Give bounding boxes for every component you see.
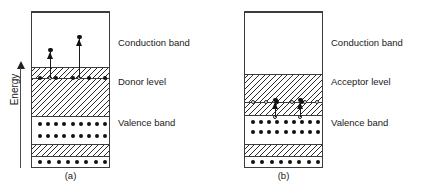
valence-row-2-item bbox=[316, 130, 320, 134]
valence-row-1-item bbox=[316, 120, 320, 124]
electron-excitation-1-arrowhead bbox=[47, 52, 53, 59]
hole-generation-1-arrowhead bbox=[272, 102, 278, 109]
valence-row-2-item bbox=[79, 134, 83, 138]
core-row-item bbox=[251, 160, 255, 164]
valence-row-1-item bbox=[292, 120, 296, 124]
valence-row-2-item bbox=[38, 134, 42, 138]
valence-row-1-item bbox=[79, 122, 83, 126]
valence-row-2-item bbox=[103, 134, 107, 138]
valence-row-2-item bbox=[95, 134, 99, 138]
acceptor-level-sites-hole bbox=[251, 100, 255, 104]
donor-level-dots-item bbox=[87, 76, 91, 80]
hole-generation-2-carrier bbox=[298, 98, 303, 103]
label-donor-level: Donor level bbox=[118, 76, 166, 87]
acceptor-level-sites-hole bbox=[290, 100, 294, 104]
valence-row-2-item bbox=[71, 134, 75, 138]
lower-hatch bbox=[32, 144, 109, 156]
acceptor-level-sites-hole bbox=[264, 100, 268, 104]
core-row-item bbox=[94, 160, 98, 164]
valence-band bbox=[32, 116, 109, 144]
electron-excitation-2-carrier bbox=[77, 35, 82, 40]
electron-excitation-1-carrier bbox=[48, 48, 53, 53]
label-acceptor-level: Acceptor level bbox=[331, 76, 391, 87]
valence-row-2-item bbox=[251, 130, 255, 134]
hole-generation-1-carrier bbox=[273, 98, 278, 103]
conduction-band bbox=[245, 12, 322, 74]
valence-row-1-item bbox=[308, 120, 312, 124]
band-diagram-figure: Energy Conduction band Donor level Valen… bbox=[0, 0, 425, 190]
panel-n-type: Conduction band Donor level Valence band… bbox=[0, 0, 212, 190]
donor-level-dots-item bbox=[71, 76, 75, 80]
valence-row-2-item bbox=[284, 130, 288, 134]
core-row-item bbox=[279, 160, 283, 164]
valence-row-1-item bbox=[71, 122, 75, 126]
core-row-item bbox=[307, 160, 311, 164]
band-box-b bbox=[244, 11, 323, 168]
valence-row-1-item bbox=[251, 120, 255, 124]
lower-hatch bbox=[245, 144, 322, 156]
valence-row-1-item bbox=[103, 122, 107, 126]
valence-row-1-item bbox=[284, 120, 288, 124]
valence-row-1-item bbox=[300, 120, 304, 124]
acceptor-level-sites-hole bbox=[315, 100, 319, 104]
donor-level-dots-item bbox=[103, 76, 107, 80]
donor-gap-hatch bbox=[32, 78, 109, 116]
acceptor-lower-hatch bbox=[245, 102, 322, 115]
valence-row-1-item bbox=[87, 122, 91, 126]
electron-excitation-2-arrowhead bbox=[76, 39, 82, 46]
label-conduction-band-b: Conduction band bbox=[331, 37, 403, 48]
label-conduction-band-a: Conduction band bbox=[118, 37, 190, 48]
core-row-item bbox=[66, 160, 70, 164]
acceptor-gap-hatch bbox=[245, 74, 322, 102]
core-row-item bbox=[316, 160, 320, 164]
label-valence-band-a: Valence band bbox=[118, 117, 175, 128]
valence-row-1-item bbox=[38, 122, 42, 126]
valence-row-1-item bbox=[95, 122, 99, 126]
label-valence-band-b: Valence band bbox=[331, 117, 388, 128]
core-row-item bbox=[38, 160, 42, 164]
hole-generation-2-arrowhead bbox=[297, 102, 303, 109]
core-row-item bbox=[270, 160, 274, 164]
valence-row-2-item bbox=[300, 130, 304, 134]
donor-level-dots-item bbox=[38, 76, 42, 80]
panel-caption-a: (a) bbox=[31, 170, 110, 181]
core-row-item bbox=[57, 160, 61, 164]
panel-caption-b: (b) bbox=[244, 170, 323, 181]
valence-row-2-item bbox=[87, 134, 91, 138]
band-box-a bbox=[31, 11, 110, 168]
panel-p-type: Conduction band Acceptor level Valence b… bbox=[213, 0, 425, 190]
core-row-item bbox=[103, 160, 107, 164]
conduction-band bbox=[32, 12, 109, 67]
valence-row-2-item bbox=[292, 130, 296, 134]
valence-row-2-item bbox=[308, 130, 312, 134]
